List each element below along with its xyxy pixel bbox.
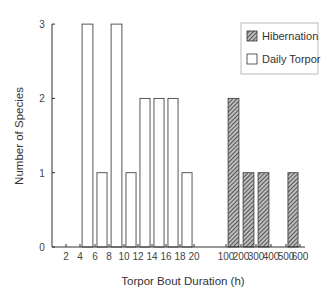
- hibernation-bar: [228, 98, 239, 247]
- hibernation-bar: [288, 173, 298, 247]
- daily-torpor-bar: [126, 173, 136, 247]
- daily-torpor-bar: [168, 98, 178, 247]
- legend: Hibernation Daily Torpor: [241, 23, 321, 74]
- y-ticks-group: 0123: [39, 19, 55, 253]
- hibernation-bar: [243, 173, 254, 247]
- x-tick-label: 6: [92, 251, 98, 262]
- x-tick-label: 14: [146, 251, 158, 262]
- x-tick-label: 600: [292, 251, 309, 262]
- y-tick-label: 2: [39, 93, 45, 104]
- y-tick-label: 3: [39, 19, 45, 30]
- daily-torpor-bar: [82, 24, 93, 247]
- x-tick-label: 8: [106, 251, 112, 262]
- legend-label-daily-torpor: Daily Torpor: [262, 53, 321, 65]
- x-tick-label: 16: [160, 251, 172, 262]
- daily-torpor-bar: [154, 98, 164, 247]
- daily-torpor-bar: [182, 173, 192, 247]
- x-tick-label: 20: [188, 251, 200, 262]
- legend-label-hibernation: Hibernation: [262, 30, 318, 42]
- daily-torpor-bar: [97, 173, 107, 247]
- y-tick-label: 1: [39, 168, 45, 179]
- x-tick-label: 2: [63, 251, 69, 262]
- x-tick-label: 4: [77, 251, 83, 262]
- daily-torpor-bar: [140, 98, 150, 247]
- torpor-histogram: 0123 2468101214161820100200300400500600 …: [0, 0, 333, 295]
- hibernation-bar: [258, 173, 269, 247]
- hibernation-swatch-icon: [247, 31, 257, 41]
- y-axis-label: Number of Species: [13, 87, 25, 185]
- daily-torpor-bar: [111, 24, 122, 247]
- x-tick-label: 12: [132, 251, 144, 262]
- x-tick-label: 18: [174, 251, 186, 262]
- daily-torpor-swatch-icon: [247, 54, 257, 64]
- x-tick-label: 10: [118, 251, 130, 262]
- y-tick-label: 0: [39, 242, 45, 253]
- x-axis-label: Torpor Bout Duration (h): [121, 275, 245, 287]
